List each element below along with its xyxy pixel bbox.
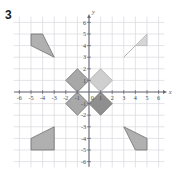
x-tick-label: -6 bbox=[17, 94, 22, 101]
y-tick-label: 4 bbox=[83, 42, 86, 49]
y-tick-label: -4 bbox=[81, 135, 86, 142]
x-tick-label: -2 bbox=[63, 94, 68, 101]
y-axis-label: y bbox=[91, 8, 95, 15]
x-tick-label: -5 bbox=[28, 94, 33, 101]
y-tick-label: -1 bbox=[81, 100, 86, 107]
x-tick-label: -4 bbox=[40, 94, 45, 101]
diamond-upper-right bbox=[89, 69, 112, 92]
x-axis-arrow bbox=[163, 90, 167, 94]
y-tick-label: 3 bbox=[83, 53, 86, 60]
y-tick-label: 2 bbox=[83, 65, 86, 72]
x-tick-label: 1 bbox=[99, 94, 102, 101]
y-tick-label: 5 bbox=[83, 30, 86, 37]
x-tick-label: 3 bbox=[122, 94, 125, 101]
coordinate-plot: -6-5-4-3-2-11234560654321-1-2-3-4-5-6 xy bbox=[0, 0, 188, 173]
y-tick-label: -2 bbox=[81, 111, 86, 118]
x-axis-label: x bbox=[168, 88, 172, 95]
y-axis-arrow bbox=[87, 14, 91, 18]
x-tick-label: -3 bbox=[52, 94, 57, 101]
x-tick-label: -1 bbox=[75, 94, 80, 101]
x-tick-label: 2 bbox=[111, 94, 114, 101]
y-tick-label: 1 bbox=[83, 77, 86, 84]
y-tick-label: -5 bbox=[81, 146, 86, 153]
x-tick-label: 4 bbox=[134, 94, 137, 101]
x-tick-label: 5 bbox=[145, 94, 148, 101]
origin-label: 0 bbox=[91, 94, 94, 101]
y-tick-label: -3 bbox=[81, 123, 86, 130]
y-tick-label: 6 bbox=[83, 19, 86, 26]
coordinate-plane-figure: 3 -6-5-4-3-2-11234560654321-1-2-3-4-5-6 … bbox=[0, 0, 188, 173]
x-tick-label: 6 bbox=[157, 94, 160, 101]
y-tick-label: -6 bbox=[81, 158, 86, 165]
